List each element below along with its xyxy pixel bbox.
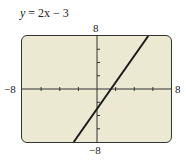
x-max-label: 8	[175, 84, 181, 95]
y-max-label: 8	[93, 23, 99, 34]
x-min-label: −8	[4, 84, 16, 95]
y-min-label: −8	[89, 145, 101, 156]
